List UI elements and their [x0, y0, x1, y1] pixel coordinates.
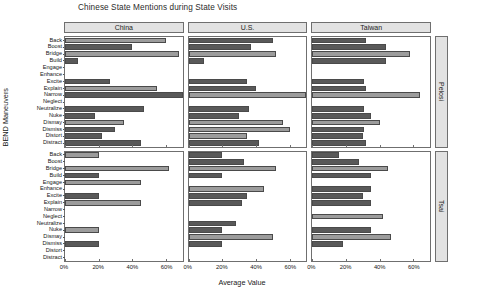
panel-tick — [346, 145, 347, 147]
panel-tick — [413, 259, 414, 261]
bar-row — [65, 120, 183, 126]
panel-tick — [166, 145, 167, 147]
bar-row — [65, 65, 183, 71]
strip-label: Pelosi — [438, 82, 445, 101]
x-tick-label: 40% — [250, 264, 262, 270]
bar-row — [65, 79, 183, 85]
bar-row — [312, 51, 430, 57]
panel-tick — [290, 145, 291, 147]
panel-pelosi-us — [188, 36, 308, 148]
y-tick-enhance: Enhance — [20, 72, 62, 78]
bar-row — [65, 127, 183, 133]
bar-row — [312, 106, 430, 112]
y-tick-dismay: Dismay — [20, 234, 62, 240]
y-axis-labels-tsai: BackBoostBridgeBuildEngageEnhanceExciteE… — [20, 152, 62, 262]
bar-row — [312, 92, 430, 98]
bar-bridge — [65, 51, 179, 57]
panel-pelosi-taiwan — [311, 36, 431, 148]
x-tick-label: 60% — [161, 264, 173, 270]
y-tick-engage: Engage — [20, 180, 62, 186]
bar-row — [312, 166, 430, 172]
bar-series — [312, 37, 430, 147]
bar-back — [65, 152, 99, 158]
row-strip-pelosi: Pelosi — [435, 36, 448, 148]
bar-explain — [65, 86, 157, 92]
bar-row — [312, 159, 430, 165]
panel-tick — [166, 259, 167, 261]
bar-distort — [312, 133, 362, 139]
bar-row — [65, 248, 183, 254]
x-tick-label: 20% — [216, 264, 228, 270]
bar-bridge — [312, 51, 409, 57]
bar-row — [189, 133, 307, 139]
y-tick-build: Build — [20, 173, 62, 179]
y-tick-excite: Excite — [20, 79, 62, 85]
y-tick-narrow: Narrow — [20, 92, 62, 98]
bar-narrow — [65, 92, 183, 98]
bar-series — [189, 152, 307, 262]
panel-tick — [380, 259, 381, 261]
strip-label: Taiwan — [360, 24, 382, 31]
bar-dismiss — [312, 241, 342, 247]
x-tick-label: 0% — [60, 264, 68, 270]
bar-row — [65, 58, 183, 64]
bar-dismay — [312, 120, 379, 126]
bar-back — [312, 38, 366, 44]
bar-excite — [189, 79, 248, 85]
strip-label: China — [115, 24, 133, 31]
bar-build — [189, 58, 204, 64]
bar-bridge — [65, 166, 169, 172]
bar-build — [65, 173, 99, 179]
y-tick-dismiss: Dismiss — [20, 127, 62, 133]
bar-row — [65, 133, 183, 139]
bar-row — [312, 234, 430, 240]
bar-bridge — [189, 166, 276, 172]
bar-series — [189, 37, 307, 147]
bar-build — [65, 58, 78, 64]
bar-row — [312, 180, 430, 186]
bar-row — [312, 113, 430, 119]
bar-row — [189, 79, 307, 85]
bar-row — [65, 186, 183, 192]
bar-back — [65, 38, 166, 44]
x-tick-label: 40% — [127, 264, 139, 270]
y-tick-neutralize: Neutralize — [20, 221, 62, 227]
bar-row — [312, 193, 430, 199]
bar-back — [312, 152, 339, 158]
bar-dismay — [189, 120, 283, 126]
panel-tick — [312, 259, 313, 261]
bar-row — [312, 79, 430, 85]
bar-boost — [312, 44, 386, 50]
bar-row — [189, 193, 307, 199]
bar-dismiss — [312, 127, 364, 133]
bar-row — [65, 221, 183, 227]
y-tick-back: Back — [20, 152, 62, 158]
bar-distort — [189, 133, 248, 139]
bar-row — [312, 127, 430, 133]
bar-series — [312, 152, 430, 262]
bar-row — [65, 99, 183, 105]
bar-back — [189, 152, 223, 158]
y-tick-narrow: Narrow — [20, 207, 62, 213]
panel-tick — [99, 145, 100, 147]
panel-tick — [290, 259, 291, 261]
bar-series — [65, 152, 183, 262]
bar-row — [65, 106, 183, 112]
bar-boost — [312, 159, 359, 165]
bar-row — [189, 214, 307, 220]
bar-row — [65, 241, 183, 247]
panel-tsai-taiwan — [311, 151, 431, 263]
bar-row — [189, 44, 307, 50]
bar-dismay — [312, 234, 391, 240]
y-tick-dismiss: Dismiss — [20, 241, 62, 247]
chart-root: Chinese State Mentions during State Visi… — [0, 0, 484, 293]
strip-label: U.S. — [241, 24, 255, 31]
y-tick-nuke: Nuke — [20, 113, 62, 119]
panel-tick — [189, 145, 190, 147]
bar-row — [189, 106, 307, 112]
y-axis-title: BEND Maneuvers — [1, 88, 10, 146]
bar-row — [312, 38, 430, 44]
y-tick-distract: Distract — [20, 140, 62, 146]
bar-row — [189, 51, 307, 57]
bar-row — [312, 221, 430, 227]
